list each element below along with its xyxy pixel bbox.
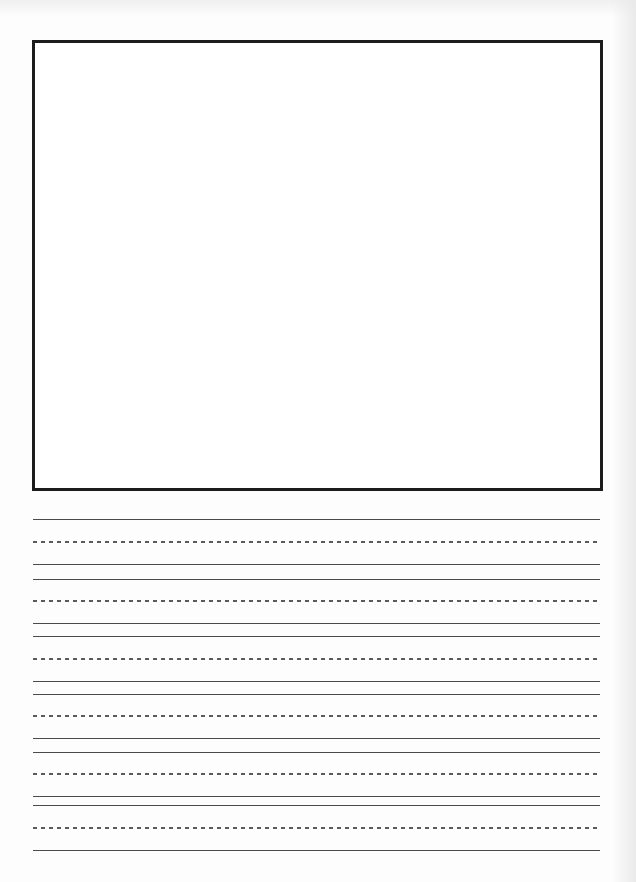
writing-row-6-base-line bbox=[33, 850, 600, 851]
drawing-box bbox=[32, 40, 603, 491]
writing-row-1-top-line bbox=[33, 519, 600, 520]
writing-row-5-top-line bbox=[33, 752, 600, 753]
writing-row-6-top-line bbox=[33, 805, 600, 806]
writing-row-5-base-line bbox=[33, 796, 600, 797]
writing-row-5-mid-line bbox=[33, 773, 600, 775]
writing-row-1-base-line bbox=[33, 564, 600, 565]
writing-row-3-mid-line bbox=[33, 658, 600, 660]
writing-row-1-mid-line bbox=[33, 541, 600, 543]
writing-row-4-top-line bbox=[33, 694, 600, 695]
writing-row-2-top-line bbox=[33, 579, 600, 580]
scan-edge-shade-right bbox=[612, 0, 636, 882]
writing-row-3-base-line bbox=[33, 681, 600, 682]
writing-row-2-base-line bbox=[33, 623, 600, 624]
writing-row-4-mid-line bbox=[33, 715, 600, 717]
writing-row-6-mid-line bbox=[33, 827, 600, 829]
writing-row-3-top-line bbox=[33, 636, 600, 637]
writing-row-2-mid-line bbox=[33, 600, 600, 602]
writing-row-4-base-line bbox=[33, 738, 600, 739]
scan-edge-shade-top bbox=[0, 0, 636, 16]
